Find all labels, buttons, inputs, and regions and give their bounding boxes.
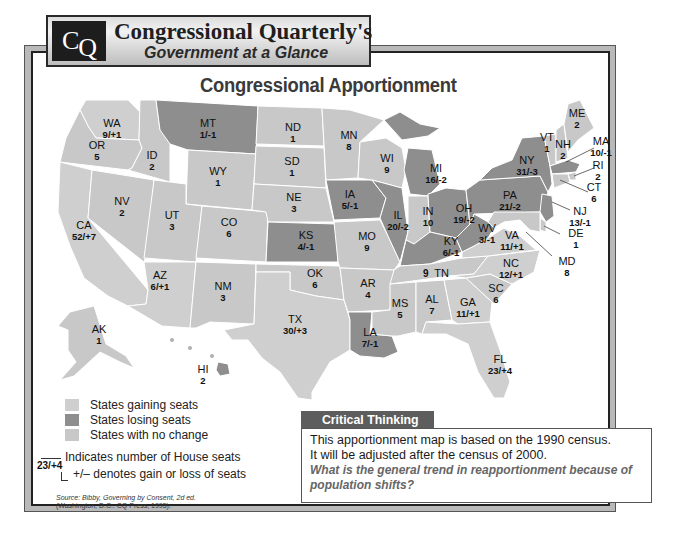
state-abbr: AL xyxy=(425,294,438,305)
state-abbr: MD xyxy=(558,256,575,267)
label-WA: WA9/+1 xyxy=(103,118,122,140)
label-WY: WY1 xyxy=(209,166,227,188)
state-seats: 2 xyxy=(555,150,571,161)
state-abbr: OK xyxy=(307,268,323,279)
state-abbr: MT xyxy=(200,118,216,129)
key-leader-top xyxy=(41,458,61,459)
legend: States gaining seats States losing seats… xyxy=(65,397,208,442)
state-abbr: AK xyxy=(92,324,107,335)
label-TN: 9 TN xyxy=(423,268,449,279)
leader-line-nj xyxy=(552,202,570,210)
state-abbr: NE xyxy=(286,192,301,203)
label-TX: TX30/+3 xyxy=(283,314,307,336)
state-seats: 6/+1 xyxy=(151,281,170,292)
label-OK: OK6 xyxy=(307,268,323,290)
state-seats: 6 xyxy=(587,193,602,204)
state-seats: 21/-2 xyxy=(499,201,521,212)
state-seats: 2 xyxy=(114,207,129,218)
state-seats: 12/+1 xyxy=(499,269,523,280)
label-SD: SD1 xyxy=(284,156,299,178)
label-NE: NE3 xyxy=(286,192,301,214)
state-seats: 9 xyxy=(423,268,429,279)
label-DE: DE1 xyxy=(568,228,583,250)
label-IL: IL20/-2 xyxy=(387,210,409,232)
state-seats: 1 xyxy=(209,177,227,188)
state-abbr: TN xyxy=(434,267,449,279)
label-WI: WI9 xyxy=(380,153,393,175)
label-LA: LA7/-1 xyxy=(362,327,378,349)
state-seats: 2 xyxy=(569,119,586,130)
label-MO: MO9 xyxy=(358,231,376,253)
key-change-label: +/– denotes gain or loss of seats xyxy=(73,467,246,481)
state-abbr: CO xyxy=(221,217,238,228)
label-MD: MD8 xyxy=(558,256,575,278)
label-IA: IA5/-1 xyxy=(342,189,358,211)
state-abbr: IN xyxy=(423,206,434,217)
state-NJ[interactable] xyxy=(540,194,554,222)
state-abbr: FL xyxy=(488,354,512,365)
state-seats: 4/-1 xyxy=(298,241,314,252)
state-seats: 7 xyxy=(425,305,438,316)
state-seats: 3 xyxy=(214,292,231,303)
key-seats-label: Indicates number of House seats xyxy=(65,450,240,464)
state-seats: 7/-1 xyxy=(362,338,378,349)
state-abbr: DE xyxy=(568,228,583,239)
state-seats: 2 xyxy=(198,375,209,386)
label-MN: MN8 xyxy=(340,130,357,152)
legend-item-no-change: States with no change xyxy=(65,427,208,442)
state-seats: 20/-2 xyxy=(387,221,409,232)
state-seats: 5/-1 xyxy=(342,200,358,211)
state-CT[interactable] xyxy=(552,174,570,188)
state-seats: 5 xyxy=(392,309,409,320)
state-seats: 11/+1 xyxy=(456,308,480,319)
state-seats: 8 xyxy=(340,141,357,152)
state-seats: 11/+1 xyxy=(500,241,524,252)
label-VT: VT1 xyxy=(540,132,554,154)
state-abbr: OR xyxy=(89,140,106,151)
label-NH: NH2 xyxy=(555,139,571,161)
state-HI[interactable] xyxy=(216,362,230,376)
critical-thinking-heading: Critical Thinking xyxy=(301,411,434,429)
state-abbr: GA xyxy=(456,297,480,308)
label-VA: VA11/+1 xyxy=(500,230,524,252)
label-KS: KS4/-1 xyxy=(298,230,314,252)
state-seats: 9 xyxy=(358,242,376,253)
label-AL: AL7 xyxy=(425,294,438,316)
label-SC: SC6 xyxy=(488,283,503,305)
state-MI-upper[interactable] xyxy=(384,112,440,140)
legend-label: States losing seats xyxy=(90,413,191,427)
legend-key: 23/+4 Indicates number of House seats +/… xyxy=(37,454,337,486)
state-seats: 23/+4 xyxy=(488,365,512,376)
label-AR: AR4 xyxy=(360,278,375,300)
label-HI: HI2 xyxy=(198,364,209,386)
state-abbr: NY xyxy=(516,155,538,166)
label-UT: UT3 xyxy=(165,210,180,232)
state-abbr: KY xyxy=(443,236,459,247)
state-seats: 1 xyxy=(540,143,554,154)
state-seats: 30/+3 xyxy=(283,325,307,336)
state-abbr: SD xyxy=(284,156,299,167)
state-HI-island-3[interactable] xyxy=(210,354,214,358)
label-MS: MS5 xyxy=(392,298,409,320)
state-seats: 1/-1 xyxy=(200,129,216,140)
state-abbr: WI xyxy=(380,153,393,164)
state-abbr: PA xyxy=(499,190,521,201)
state-abbr: RI xyxy=(593,160,604,171)
state-HI-island-1[interactable] xyxy=(170,338,174,342)
state-seats: 6 xyxy=(307,279,323,290)
label-IN: IN10 xyxy=(423,206,434,228)
leader-line-ct xyxy=(560,180,588,192)
state-seats: 10 xyxy=(423,217,434,228)
state-abbr: MS xyxy=(392,298,409,309)
state-abbr: SC xyxy=(488,283,503,294)
legend-label: States gaining seats xyxy=(90,398,198,412)
state-abbr: MN xyxy=(340,130,357,141)
state-abbr: UT xyxy=(165,210,180,221)
label-ID: ID2 xyxy=(147,150,158,172)
state-HI-island-2[interactable] xyxy=(188,346,192,350)
label-MA: MA10/-1 xyxy=(590,136,612,158)
state-seats: 31/-3 xyxy=(516,166,538,177)
state-seats: 6 xyxy=(221,228,238,239)
label-AZ: AZ6/+1 xyxy=(151,270,170,292)
label-FL: FL23/+4 xyxy=(488,354,512,376)
